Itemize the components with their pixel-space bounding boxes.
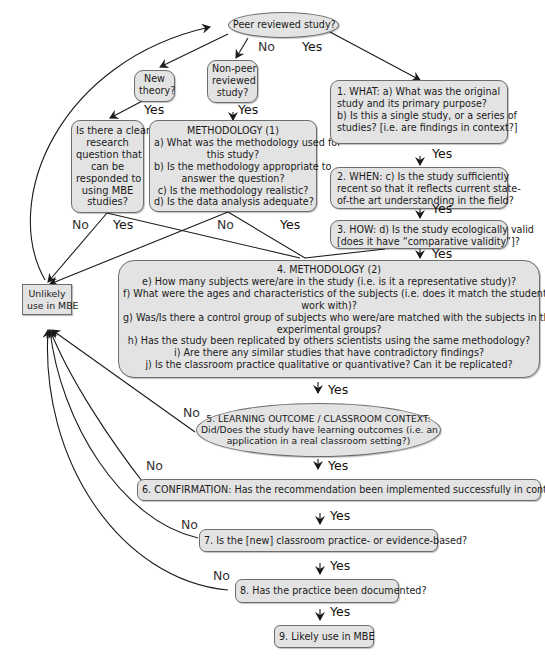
- node-text: studies? [i.e. are findings in context?]: [337, 122, 501, 134]
- node-text: g) Was/Is there a control group of subje…: [123, 312, 535, 324]
- edge-label-how-yes: Yes: [432, 247, 452, 261]
- node-text: use in MBE: [27, 300, 67, 312]
- edge-label-what-yes: Yes: [432, 147, 452, 161]
- node-text: 1. WHAT: a) What was the original: [337, 86, 501, 98]
- edge-label-practice-no: No: [181, 518, 198, 532]
- node-text: 3. HOW: d) Is the study ecologically val…: [337, 224, 501, 236]
- node-text: theory?: [139, 85, 170, 97]
- node-confirmation: 6. CONFIRMATION: Has the recommendation …: [137, 479, 541, 501]
- node-text: Non-peer: [212, 63, 253, 75]
- node-methodology-2: 4. METHODOLOGY (2) e) How many subjects …: [118, 260, 540, 378]
- edge-label-meth1-no: No: [217, 218, 234, 232]
- node-text: answer the question?: [154, 173, 312, 185]
- node-text: question that: [76, 149, 139, 161]
- node-text: recent so that it reflects current state…: [337, 183, 501, 195]
- node-when: 2. WHEN: c) Is the study sufficiently re…: [330, 167, 508, 209]
- node-methodology-1: METHODOLOGY (1) a) What was the methodol…: [149, 120, 317, 212]
- node-research-question: Is there a clear research question that …: [71, 120, 144, 213]
- node-text: reviewed: [212, 75, 253, 87]
- node-text: work with)?: [123, 300, 535, 312]
- node-text: b) Is the methodology appropriate to: [154, 161, 312, 173]
- node-text: j) Is the classroom practice qualitative…: [123, 359, 535, 371]
- edge-label-lo-yes: Yes: [328, 459, 348, 473]
- node-title: 4. METHODOLOGY (2): [123, 264, 535, 276]
- node-text: 2. WHEN: c) Is the study sufficiently: [337, 171, 501, 183]
- node-likely-use: 9. Likely use in MBE: [274, 625, 374, 648]
- node-text: research: [76, 137, 139, 149]
- edge-label-rq-yes: Yes: [113, 218, 133, 232]
- node-text: responded to: [76, 173, 139, 185]
- node-text: study?: [212, 87, 253, 99]
- node-new-theory: New theory?: [134, 70, 175, 102]
- node-unlikely-use: Unlikely use in MBE: [22, 284, 72, 315]
- node-text: 8. Has the practice been documented?: [240, 585, 394, 597]
- node-peer-reviewed: Peer reviewed study?: [228, 12, 339, 38]
- edge-label-rq-no: No: [72, 218, 89, 232]
- node-text: of-the art understanding in the field?: [337, 195, 501, 207]
- node-text: can be: [76, 161, 139, 173]
- edge-label-doc-yes: Yes: [330, 605, 350, 619]
- node-practice-based: 7. Is the [new] classroom practice- or e…: [199, 529, 438, 552]
- node-text: b) Is this a single study, or a series o…: [337, 110, 501, 122]
- node-non-peer-reviewed: Non-peer reviewed study?: [207, 60, 258, 103]
- node-text: h) Has the study been replicated by othe…: [123, 335, 535, 347]
- node-text: 9. Likely use in MBE: [279, 631, 369, 643]
- edge-label-conf-yes: Yes: [330, 509, 350, 523]
- node-text: c) Is the methodology realistic?: [154, 185, 312, 197]
- node-text: [does it have “comparative validity”]?: [337, 236, 501, 248]
- edge-label-meth1-yes: Yes: [280, 218, 300, 232]
- node-text: experimental groups?: [123, 324, 535, 336]
- node-text: New: [139, 73, 170, 85]
- node-text: studies?: [76, 196, 139, 208]
- node-text: f) What were the ages and characteristic…: [123, 288, 535, 300]
- edge-label-non-peer-yes: Yes: [238, 103, 258, 117]
- node-text: d) Is the data analysis adequate?: [154, 196, 312, 208]
- node-what: 1. WHAT: a) What was the original study …: [330, 80, 508, 144]
- node-text: Did/Does the study have learning outcome…: [201, 424, 436, 435]
- edge-label-conf-no: No: [146, 459, 163, 473]
- node-text: Unlikely: [27, 288, 67, 300]
- edge-label-peer-yes: Yes: [302, 40, 322, 54]
- node-text: this study?: [154, 149, 312, 161]
- node-how: 3. HOW: d) Is the study ecologically val…: [330, 220, 508, 249]
- node-text: using MBE: [76, 185, 139, 197]
- edge-label-meth2-yes: Yes: [328, 383, 348, 397]
- edge-label-practice-yes: Yes: [330, 559, 350, 573]
- edge-label-when-yes: Yes: [432, 202, 452, 216]
- node-documented: 8. Has the practice been documented?: [235, 579, 399, 603]
- node-text: Peer reviewed study?: [233, 19, 334, 31]
- edge-label-new-theory-yes: Yes: [144, 103, 164, 117]
- node-text: 7. Is the [new] classroom practice- or e…: [204, 535, 433, 547]
- edge-label-doc-no: No: [213, 569, 230, 583]
- node-text: study and its primary purpose?: [337, 98, 501, 110]
- node-learning-outcome: 5. LEARNING OUTCOME / CLASSROOM CONTEXT:…: [196, 403, 441, 457]
- node-title: METHODOLOGY (1): [154, 125, 312, 137]
- node-text: a) What was the methodology used for: [154, 137, 312, 149]
- node-text: e) How many subjects were/are in the stu…: [123, 276, 535, 288]
- node-text: 6. CONFIRMATION: Has the recommendation …: [142, 484, 536, 496]
- flowchart-canvas: Peer reviewed study? New theory? Non-pee…: [0, 0, 545, 656]
- edge-label-peer-no: No: [258, 40, 275, 54]
- node-text: Is there a clear: [76, 125, 139, 137]
- node-text: i) Are there any similar studies that ha…: [123, 347, 535, 359]
- edge-label-lo-no: No: [183, 406, 200, 420]
- node-title: 5. LEARNING OUTCOME / CLASSROOM CONTEXT:: [201, 413, 436, 424]
- node-text: application in a real classroom setting?…: [201, 435, 436, 446]
